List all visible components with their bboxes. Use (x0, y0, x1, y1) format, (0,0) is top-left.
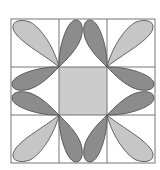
edge-petal-top-right (84, 20, 107, 67)
edge-petal-bottom-right (84, 115, 107, 162)
corner-petal-top-right (107, 20, 153, 67)
edge-petal-top-left (59, 20, 82, 67)
edge-petal-left-top (12, 67, 59, 90)
corner-petal-bottom-right (107, 115, 153, 162)
edge-petal-bottom-left (59, 115, 82, 162)
edge-petal-left-bottom (12, 92, 59, 115)
quilt-block-diagram (0, 0, 160, 170)
corner-petal-bottom-left (13, 115, 59, 162)
edge-petal-right-bottom (107, 92, 154, 115)
center-square (59, 67, 107, 115)
corner-petal-top-left (13, 20, 59, 67)
edge-petal-right-top (107, 67, 154, 90)
